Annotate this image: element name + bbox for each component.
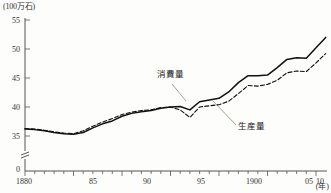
y-axis-break (21, 152, 29, 155)
rice-production-consumption-chart: (100万石) 55 50 45 40 35 0 1880 85 90 95 1… (0, 0, 331, 193)
leader-line-production (213, 101, 236, 125)
series-line-consumption (25, 37, 326, 134)
axes-group (21, 18, 327, 176)
x-axis-ticks (25, 171, 316, 176)
y-axis-ticks (25, 20, 30, 136)
chart-plot-area (0, 0, 331, 193)
leader-line-consumption (172, 84, 186, 101)
annotation-leaders (172, 84, 236, 125)
y-axis-break-2 (21, 155, 29, 158)
